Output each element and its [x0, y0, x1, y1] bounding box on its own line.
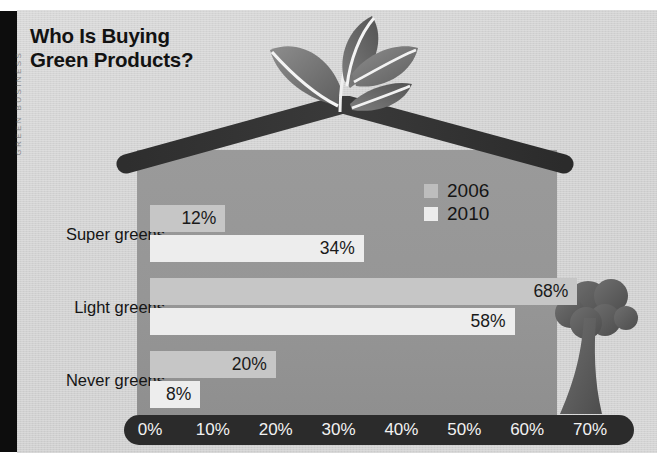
bar-super-greens-2010: 34%: [150, 235, 364, 262]
bar-never-greens-2006: 20%: [150, 351, 276, 378]
x-tick-40: 40%: [384, 420, 418, 440]
bar-value-label: 58%: [471, 313, 515, 331]
x-tick-60: 60%: [510, 420, 544, 440]
x-tick-30: 30%: [322, 420, 356, 440]
bar-value-label: 68%: [533, 283, 577, 301]
bar-value-label: 12%: [181, 210, 225, 228]
bar-value-label: 34%: [320, 240, 364, 258]
bar-chart-plot: Super greens12%34%Light greens68%58%Neve…: [0, 0, 657, 463]
x-tick-10: 10%: [196, 420, 230, 440]
x-tick-0: 0%: [138, 420, 163, 440]
x-tick-70: 70%: [573, 420, 607, 440]
x-axis: 0%10%20%30%40%50%60%70%: [124, 415, 634, 445]
x-tick-20: 20%: [259, 420, 293, 440]
x-tick-50: 50%: [447, 420, 481, 440]
bar-light-greens-2006: 68%: [150, 278, 577, 305]
bar-value-label: 8%: [166, 386, 200, 404]
bar-light-greens-2010: 58%: [150, 308, 515, 335]
bar-value-label: 20%: [232, 356, 276, 374]
infographic-page: GREEN BUSINESS: [0, 0, 657, 463]
bar-never-greens-2010: 8%: [150, 381, 200, 408]
bar-super-greens-2006: 12%: [150, 205, 225, 232]
